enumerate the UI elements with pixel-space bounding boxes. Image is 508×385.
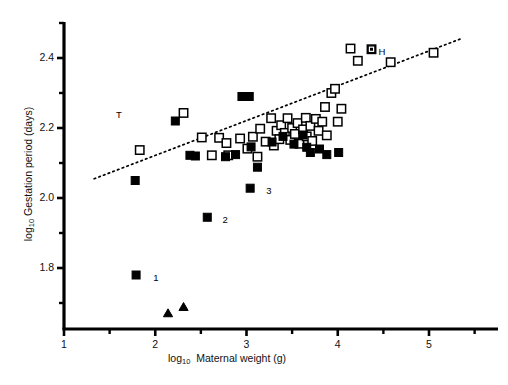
y-axis-title: log10 Gestation period (days) [22,74,34,274]
point-annotation-2: 2 [222,214,227,225]
data-point-open-square [256,125,264,133]
y-axis-log-prefix: log [22,227,34,241]
data-point-open-square [323,131,331,139]
point-annotation-t: T [116,109,122,120]
data-point-open-square [179,109,187,117]
x-axis-log-subscript: 10 [182,357,190,366]
data-point-open-square [314,127,322,135]
data-point-open-square [334,118,342,126]
y-axis-log-subscript: 10 [27,219,36,227]
data-point-filled-triangle [163,309,172,317]
data-point-filled-triangle [179,303,188,311]
data-point-filled-square [131,177,139,185]
data-point-open-square [321,103,329,111]
data-point-filled-square [335,149,343,157]
data-point-filled-square [268,138,276,146]
data-point-open-square [136,146,144,154]
data-point-filled-square [203,213,211,221]
data-point-open-square [386,58,394,66]
x-axis-tick-label: 5 [414,338,444,350]
data-point-filled-square [279,132,287,140]
data-point-filled-square [323,151,331,159]
data-point-filled-square [299,131,307,139]
x-axis-log-prefix: log [168,352,182,364]
y-axis-tick-label: 1.8 [20,261,54,273]
point-annotation-1: 1 [153,272,158,283]
data-point-filled-square [191,152,199,160]
data-point-filled-square [306,149,314,157]
y-axis-tick-label: 2.2 [20,121,54,133]
data-point-open-square [331,85,339,93]
point-annotation-3: 3 [266,185,271,196]
data-point-open-square [222,139,230,147]
data-point-open-square [318,118,326,126]
data-point-filled-square [132,271,140,279]
data-point-open-square [346,44,354,52]
point-annotation-h: H [379,46,386,57]
data-point-open-square [302,114,310,122]
plot-canvas [0,0,508,385]
data-point-filled-square [222,153,230,161]
x-axis-tick-label: 4 [323,338,353,350]
data-point-open-square [283,114,291,122]
data-point-open-square [337,105,345,113]
data-point-open-square [429,49,437,57]
data-point-filled-square [290,140,298,148]
data-point-filled-square [232,151,240,159]
data-point-filled-square [246,184,254,192]
data-point-open-square [208,151,216,159]
data-point-filled-square [253,163,261,171]
x-axis-tick-label: 2 [140,338,170,350]
data-point-open-square [291,130,299,138]
data-point-filled-square [245,93,253,101]
data-point-open-square [249,133,257,141]
y-axis-tick-label: 2.4 [20,51,54,63]
figure-bottom-margin [0,378,508,385]
data-point-open-square [198,133,206,141]
data-point-open-square [236,134,244,142]
x-axis-title: log10 Maternal weight (g) [168,352,286,364]
highlight-marker-inner-square [370,48,373,51]
regression-trendline [94,39,461,179]
data-point-open-square [267,114,275,122]
data-point-open-square [354,57,362,65]
x-axis-label-text: Maternal weight (g) [196,352,286,364]
data-point-filled-square [171,117,179,125]
figure-scatter-plot: log10 Gestation period (days) log10 Mate… [0,0,508,385]
x-axis-tick-label: 1 [49,338,79,350]
data-point-filled-square [247,143,255,151]
x-axis-tick-label: 3 [232,338,262,350]
data-point-open-square [253,153,261,161]
y-axis-tick-label: 2.0 [20,191,54,203]
